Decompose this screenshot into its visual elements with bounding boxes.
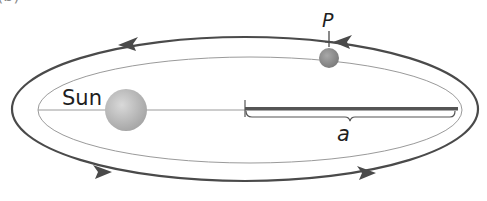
sun-label: Sun: [62, 88, 102, 109]
panel-label-clipped: (b): [0, 0, 20, 4]
sun-body: [105, 89, 147, 131]
semi-major-axis-label: a: [337, 124, 350, 145]
planet-body: [319, 48, 339, 68]
arrow-left-icon: [333, 35, 352, 49]
semi-major-axis-bar: [245, 107, 458, 111]
planet-label: P: [322, 11, 333, 30]
semi-major-axis-brace: [246, 111, 455, 121]
